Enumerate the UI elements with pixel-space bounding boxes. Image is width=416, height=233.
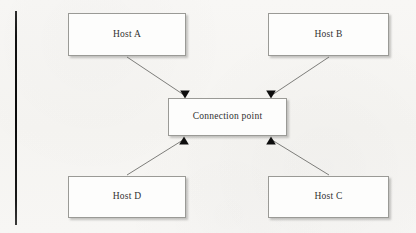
edge-host-b-to-connection-point: [266, 57, 329, 99]
node-host-c[interactable]: Host C: [268, 176, 389, 218]
edge-host-d-to-connection-point: [127, 137, 189, 176]
node-host-b[interactable]: Host B: [268, 13, 389, 56]
edge-host-a-to-connection-point: [127, 57, 190, 99]
diagram-canvas: Host A Host B Connection point Host D Ho…: [0, 0, 416, 233]
node-host-b-label: Host B: [314, 30, 342, 40]
node-host-a-label: Host A: [113, 30, 141, 40]
node-host-d-label: Host D: [113, 192, 142, 202]
edge-host-c-to-connection-point: [266, 137, 329, 176]
node-connection-point-label: Connection point: [193, 112, 263, 122]
node-connection-point[interactable]: Connection point: [168, 98, 287, 136]
node-host-c-label: Host C: [314, 192, 342, 202]
arrowhead-icon: [179, 137, 189, 145]
node-host-a[interactable]: Host A: [68, 13, 186, 56]
node-host-d[interactable]: Host D: [68, 176, 186, 218]
arrowhead-icon: [266, 137, 276, 145]
